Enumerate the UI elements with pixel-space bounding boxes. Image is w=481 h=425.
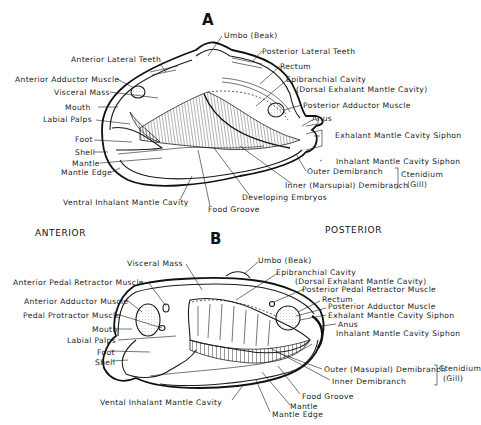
label-a-exhalant-siphon: Exhalant Mantle Cavity Siphon	[335, 131, 462, 140]
label-a-inhalant-siphon: Inhalant Mantle Cavity Siphon	[336, 157, 460, 166]
label-b-anterior-adductor-muscle: Anterior Adductor Muscle	[24, 297, 129, 306]
label-a-visceral-mass: Visceral Mass	[54, 88, 110, 97]
label-b-posterior-pedal-retractor: Posterior Pedal Retractor Muscle	[302, 285, 436, 294]
label-b-anus: Anus	[338, 320, 358, 329]
label-b-ventral-inhalant: Vental Inhalant Mantle Cavity	[100, 398, 222, 407]
label-b-visceral-mass: Visceral Mass	[127, 259, 183, 268]
label-a-shell: Shell	[75, 148, 95, 157]
label-a-gill: (Gill)	[407, 180, 427, 189]
label-b-umbo: Umbo (Beak)	[258, 256, 312, 265]
label-a-posterior-lateral-teeth: Posterior Lateral Teeth	[262, 47, 355, 56]
label-b-shell: Shell	[95, 358, 115, 367]
panel-b-letter: B	[210, 230, 221, 248]
label-a-outer-demibranch: Outer Demibranch	[307, 167, 383, 176]
label-a-foot: Foot	[75, 135, 93, 144]
label-a-food-groove: Food Groove	[208, 205, 260, 214]
label-a-labial-palps: Labial Palps	[43, 115, 92, 124]
label-b-anterior-pedal-retractor: Anterior Pedal Retractor Muscle	[13, 278, 144, 287]
label-b-posterior-adductor-muscle: Posterior Adductor Muscle	[328, 302, 436, 311]
label-b-ctenidium: Ctenidium	[439, 364, 481, 373]
orientation-anterior: ANTERIOR	[35, 228, 86, 238]
label-a-mouth: Mouth	[65, 103, 91, 112]
label-b-pedal-protractor: Pedal Protractor Muscle	[23, 311, 120, 320]
label-a-ctenidium: Ctenidium	[401, 170, 443, 179]
label-a-rectum: Rectum	[280, 62, 311, 71]
label-b-labial-palps: Labial Palps	[67, 336, 116, 345]
label-b-gill: (Gill)	[443, 374, 463, 383]
panel-a-letter: A	[202, 11, 214, 29]
label-a-epibranchial-cavity-sub: (Dorsal Exhalant Mantle Cavity)	[296, 85, 427, 94]
label-a-epibranchial-cavity: Epibranchial Cavity	[286, 75, 366, 84]
label-a-developing-embryos: Developing Embryos	[242, 193, 327, 202]
label-b-mouth: Mouth	[92, 325, 118, 334]
orientation-posterior: POSTERIOR	[325, 225, 382, 235]
label-b-epibranchial-cavity: Epibranchial Cavity	[276, 268, 356, 277]
label-a-mantle-edge: Mantle Edge	[61, 168, 112, 177]
label-b-mantle-edge: Mantle Edge	[272, 410, 323, 419]
label-a-umbo: Umbo (Beak)	[224, 31, 278, 40]
label-a-posterior-adductor-muscle: Posterior Adductor Muscle	[303, 101, 411, 110]
label-a-ventral-inhalant: Ventral Inhalant Mantle Cavity	[63, 198, 189, 207]
label-b-exhalant-siphon: Exhalant Mantle Cavity Siphon	[328, 311, 455, 320]
label-b-inner-demibranch: Inner Demibranch	[332, 377, 406, 386]
label-b-outer-demibranch: Outer (Masupial) Demibranch	[324, 365, 446, 374]
label-b-inhalant-siphon: Inhalant Mantle Cavity Siphon	[336, 329, 460, 338]
diagram-b	[103, 272, 323, 388]
label-a-anterior-lateral-teeth: Anterior Lateral Teeth	[71, 55, 161, 64]
label-a-inner-demibranch: Inner (Marsupial) Demibranch	[285, 181, 408, 190]
label-a-anus: Anus	[312, 114, 332, 123]
label-b-food-groove: Food Groove	[302, 392, 354, 401]
label-a-mantle: Mantle	[72, 159, 100, 168]
label-b-foot: Foot	[97, 348, 115, 357]
label-a-anterior-adductor-muscle: Anterior Adductor Muscle	[15, 75, 120, 84]
